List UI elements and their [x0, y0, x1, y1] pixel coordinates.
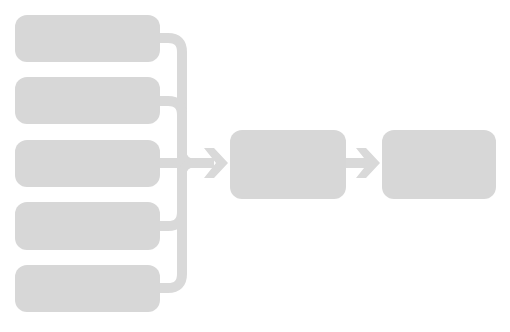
- flow-diagram: [0, 0, 510, 332]
- input-node-2: [15, 77, 160, 124]
- output-node: [382, 130, 496, 199]
- input-node-4: [15, 202, 160, 250]
- input-node-1: [15, 15, 160, 62]
- connector-input-2: [158, 101, 182, 115]
- input-node-5: [15, 265, 160, 312]
- input-node-3: [15, 140, 160, 187]
- process-node: [230, 130, 346, 199]
